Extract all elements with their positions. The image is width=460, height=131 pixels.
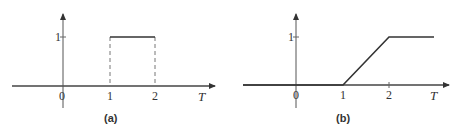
y-tick-label: 1 — [288, 30, 294, 44]
y-tick-label: 1 — [55, 30, 61, 44]
x-tick-label-0: 0 — [293, 88, 299, 102]
x-axis-label: T — [198, 89, 206, 104]
x-tick-label-0: 0 — [59, 89, 65, 103]
panel-a: 1 0 1 2 T (a) — [12, 14, 215, 124]
x-tick-label-2: 2 — [386, 88, 392, 102]
x-axis-label: T — [430, 88, 438, 103]
x-tick-label-2: 2 — [152, 89, 158, 103]
ramp-curve — [243, 37, 434, 85]
figure: 1 0 1 2 T (a) 1 0 1 2 T (b) — [0, 0, 460, 131]
x-tick-label-1: 1 — [340, 88, 346, 102]
x-tick-label-1: 1 — [107, 89, 113, 103]
caption-b: (b) — [336, 112, 350, 124]
caption-a: (a) — [104, 112, 118, 124]
panel-b: 1 0 1 2 T (b) — [243, 14, 449, 124]
